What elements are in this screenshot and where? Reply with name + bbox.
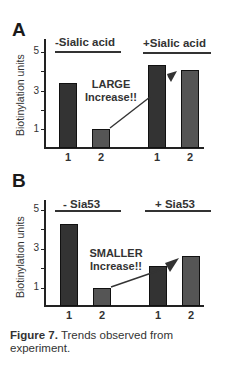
- caption-label: Figure 7.: [10, 329, 58, 341]
- figure-caption: Figure 7. Trends observed from experimen…: [10, 329, 220, 355]
- trend-arrow-icon: [0, 0, 225, 325]
- panel-b: B Biotinylation units 5 3 1 - Sia53 + Si…: [0, 0, 225, 325]
